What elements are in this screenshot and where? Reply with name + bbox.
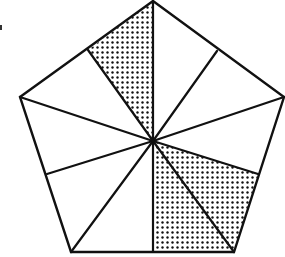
spoke-line [153, 97, 284, 141]
spoke-line [47, 141, 153, 174]
edge-mark [0, 25, 2, 30]
pentagon-diagram [0, 0, 285, 257]
shaded-region-upper-left-top [88, 1, 153, 141]
shaded-regions [88, 1, 258, 252]
spoke-line [71, 141, 153, 252]
spoke-line [153, 51, 217, 141]
